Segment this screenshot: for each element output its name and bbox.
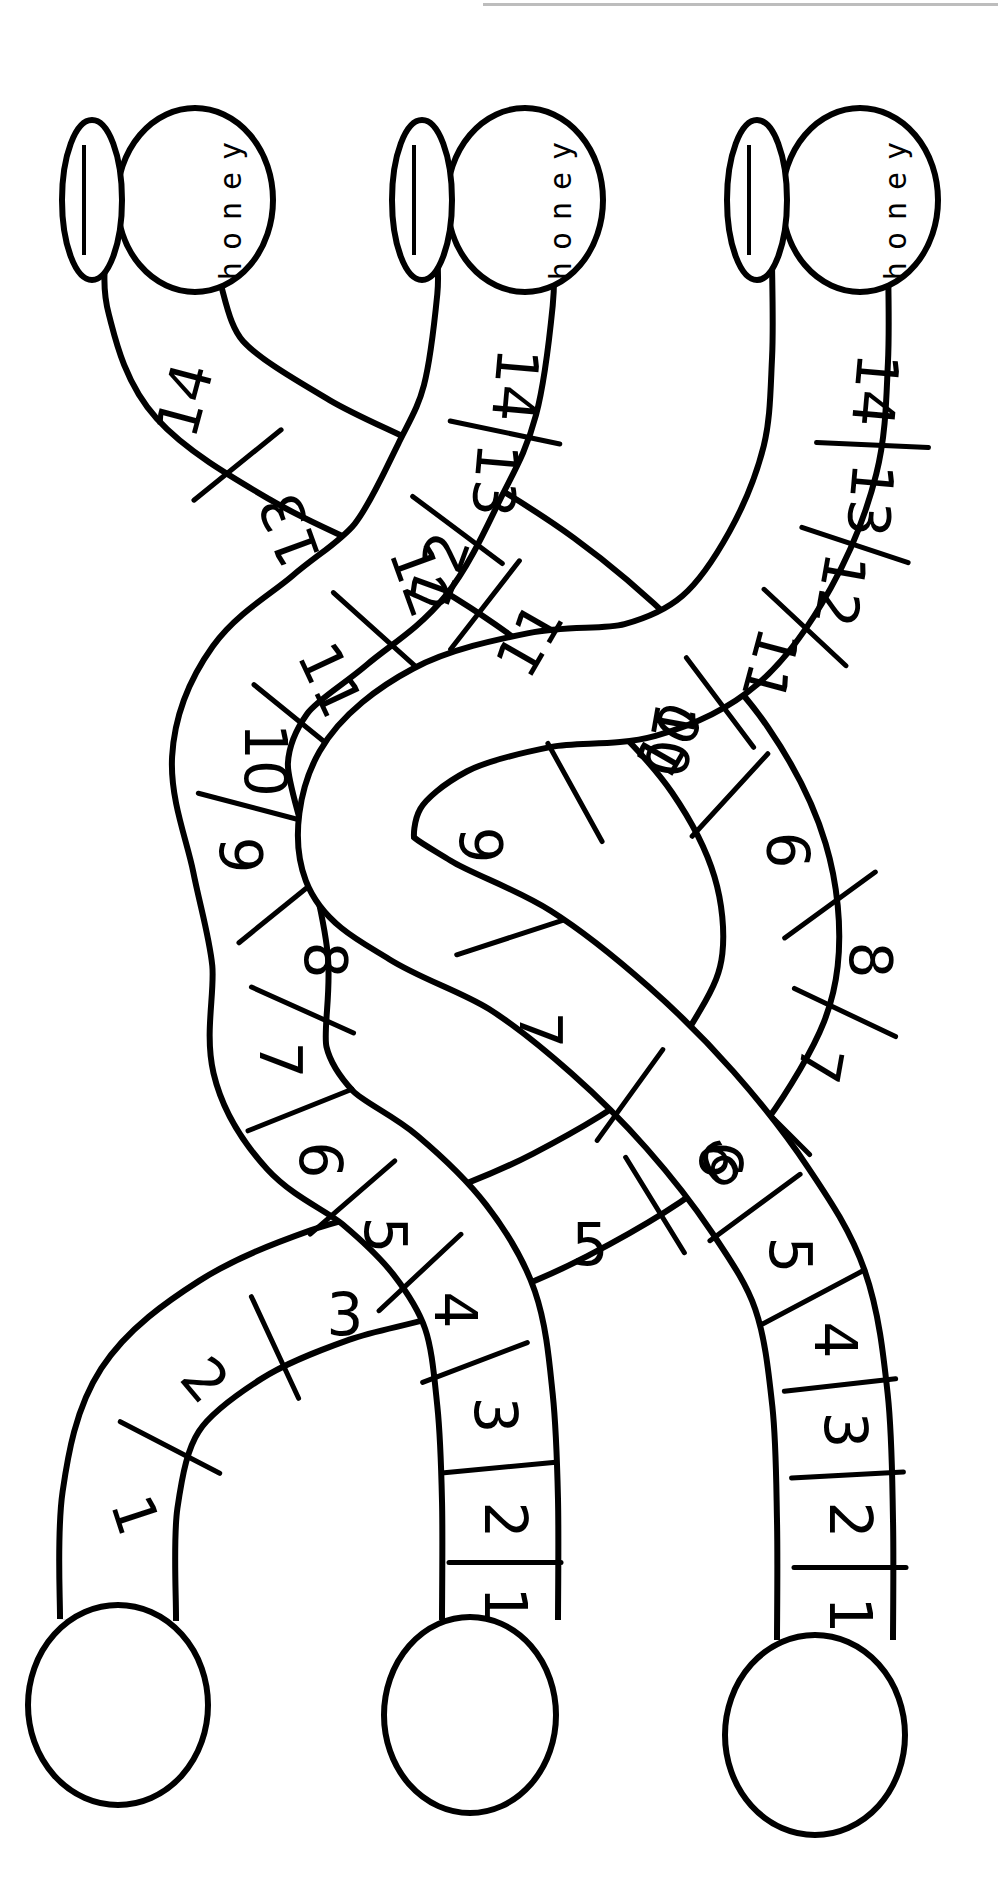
cell-number[interactable]: 10 — [231, 723, 299, 797]
cell-number[interactable]: 14 — [478, 345, 552, 424]
cell-number[interactable]: 4 — [421, 1292, 489, 1329]
pot-body — [447, 108, 603, 292]
start-circle[interactable] — [725, 1635, 905, 1835]
cell-divider — [548, 743, 602, 841]
pot-rim — [392, 120, 452, 280]
honey-pot-icon[interactable]: honey — [392, 108, 603, 292]
start-circle[interactable] — [384, 1617, 556, 1813]
cell-number[interactable]: 8 — [836, 942, 904, 979]
cell-number[interactable]: 1 — [816, 1597, 884, 1634]
cell-number[interactable]: 3 — [811, 1412, 879, 1449]
pot-rim — [727, 120, 787, 280]
cell-number[interactable]: 13 — [458, 440, 532, 519]
start-circle[interactable] — [28, 1605, 208, 1805]
honey-label: honey — [543, 130, 578, 280]
pot-body — [782, 108, 938, 292]
cell-number[interactable]: 5 — [756, 1237, 824, 1274]
worksheet-board: 1235678910111213141234567891011121314123… — [0, 0, 998, 1884]
honey-pot-icon[interactable]: honey — [62, 108, 273, 292]
cell-number[interactable]: 7 — [506, 1012, 574, 1049]
cell-number[interactable]: 3 — [327, 1281, 364, 1349]
pot-body — [117, 108, 273, 292]
cell-number[interactable]: 7 — [246, 1042, 314, 1079]
cell-number[interactable]: 5 — [351, 1217, 419, 1254]
cell-number[interactable]: 4 — [801, 1322, 869, 1359]
cell-number[interactable]: 3 — [461, 1397, 529, 1434]
cell-number[interactable]: 9 — [446, 827, 514, 864]
cell-number[interactable]: 9 — [206, 837, 274, 874]
cell-number[interactable]: 2 — [471, 1502, 539, 1539]
cell-number[interactable]: 10 — [630, 698, 710, 782]
cell-number[interactable]: 6 — [686, 1142, 754, 1179]
pot-rim — [62, 120, 122, 280]
cell-number[interactable]: 14 — [838, 350, 912, 429]
honey-label: honey — [878, 130, 913, 280]
cell-number[interactable]: 13 — [833, 460, 907, 539]
honey-pot-icon[interactable]: honey — [727, 108, 938, 292]
honey-label: honey — [213, 130, 248, 280]
cell-number[interactable]: 9 — [756, 832, 824, 869]
cell-number[interactable]: 6 — [286, 1142, 354, 1179]
cell-number[interactable]: 2 — [816, 1502, 884, 1539]
cell-number[interactable]: 12 — [800, 548, 880, 632]
cell-number[interactable]: 5 — [572, 1211, 609, 1279]
cell-number[interactable]: 8 — [291, 942, 359, 979]
